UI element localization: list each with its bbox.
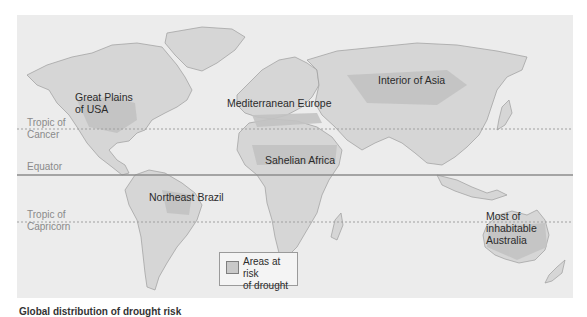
label-line: of USA <box>75 103 133 115</box>
tropic-of-capricorn-label: Tropic of Capricorn <box>27 209 70 233</box>
region-label-sahelian-africa: Sahelian Africa <box>265 154 335 166</box>
region-label-northeast-brazil: Northeast Brazil <box>149 191 224 203</box>
map-frame: Tropic of Cancer Equator Tropic of Capri… <box>17 15 573 298</box>
region-label-great-plains-usa: Great Plains of USA <box>75 91 133 115</box>
equator-label: Equator <box>27 161 62 173</box>
legend-label: Areas at risk of drought <box>243 256 297 292</box>
region-label-inhabitable-australia: Most of inhabitable Australia <box>486 210 537 246</box>
label-line: Capricorn <box>27 221 70 233</box>
label-line: Australia <box>486 234 537 246</box>
indonesia-shape <box>437 175 507 200</box>
figure-caption: Global distribution of drought risk <box>19 306 181 317</box>
region-label-mediterranean-europe: Mediterranean Europe <box>227 97 331 109</box>
label-line: Cancer <box>27 129 66 141</box>
legend-line: of drought <box>243 280 297 292</box>
europe-shape <box>237 57 319 119</box>
japan-shape <box>497 100 512 130</box>
label-line: Most of <box>486 210 537 222</box>
label-line: Great Plains <box>75 91 133 103</box>
south-america-shape <box>125 170 202 290</box>
africa-shape <box>237 119 342 257</box>
label-line: inhabitable <box>486 222 537 234</box>
new-zealand-shape <box>545 260 565 283</box>
tropic-of-cancer-label: Tropic of Cancer <box>27 117 66 141</box>
label-line: Tropic of <box>27 209 70 221</box>
map-legend: Areas at risk of drought <box>219 252 298 286</box>
greenland-shape <box>165 27 245 71</box>
madagascar-shape <box>331 213 343 240</box>
label-line: Tropic of <box>27 117 66 129</box>
region-label-interior-of-asia: Interior of Asia <box>378 74 445 86</box>
legend-line: Areas at risk <box>243 256 297 280</box>
drought-risk-swatch <box>226 261 239 274</box>
